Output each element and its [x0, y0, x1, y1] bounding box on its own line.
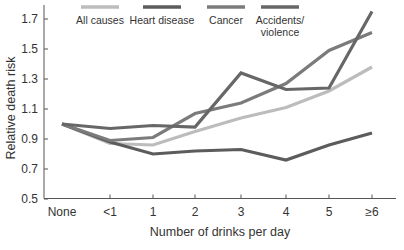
legend-label: All causes — [76, 14, 124, 26]
legend-label: Accidents/ — [256, 14, 305, 26]
x-tick-label: <1 — [103, 205, 117, 219]
series-line-accidents-violence — [62, 12, 372, 129]
x-tick-label: 2 — [192, 205, 199, 219]
line-chart: All causesHeart diseaseCancerAccidents/v… — [0, 0, 404, 250]
y-tick-label: 1.5 — [21, 42, 38, 56]
y-tick-label: 0.5 — [21, 192, 38, 206]
x-tick-label: 3 — [238, 205, 245, 219]
x-tick-label: None — [48, 205, 77, 219]
y-tick-label: 1.1 — [21, 102, 38, 116]
x-tick-label: 1 — [150, 205, 157, 219]
y-tick-label: 1.3 — [21, 72, 38, 86]
x-tick-label: ≥6 — [365, 205, 379, 219]
legend-label: Heart disease — [130, 14, 195, 26]
y-tick-label: 0.7 — [21, 162, 38, 176]
x-axis-title: Number of drinks per day — [150, 225, 291, 239]
legend: All causesHeart diseaseCancerAccidents/v… — [76, 7, 304, 38]
y-tick-label: 1.7 — [21, 12, 38, 26]
x-tick-label: 4 — [283, 205, 290, 219]
y-axis-title: Relative death risk — [4, 56, 18, 160]
x-tick-label: 5 — [326, 205, 333, 219]
axes — [44, 5, 396, 199]
series-line-all-causes — [62, 67, 372, 145]
series-lines — [62, 12, 372, 161]
legend-label: violence — [261, 26, 300, 38]
y-tick-label: 0.9 — [21, 132, 38, 146]
legend-label: Cancer — [209, 14, 243, 26]
